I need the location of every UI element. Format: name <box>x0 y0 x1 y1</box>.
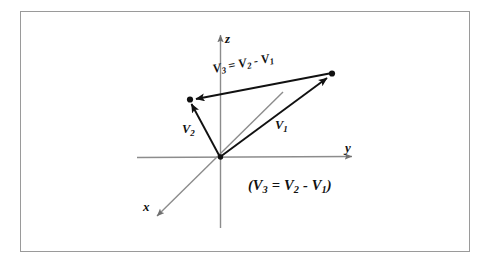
paren-v2-subscript: 2 <box>294 184 299 195</box>
vector-v2-arrow <box>192 104 221 157</box>
paren-v1-base: V <box>312 177 322 193</box>
y-axis-label: y <box>345 141 351 154</box>
v3-eq-v2-subscript: 2 <box>246 60 252 71</box>
v3-eq-equals: = <box>227 58 237 73</box>
vector-v1-label-subscript: 1 <box>283 124 288 134</box>
vector-v2-label-subscript: 2 <box>190 128 195 138</box>
v3-eq-v3-subscript: 3 <box>221 65 227 76</box>
y-axis-line <box>137 157 352 158</box>
paren-v3-base: V <box>253 177 263 193</box>
v3-equation-parenthetical: (V3=V2-V1) <box>248 178 331 195</box>
vector-diagram-svg <box>0 0 487 268</box>
paren-minus: - <box>303 177 308 193</box>
vector-v1-label: V1 <box>275 119 288 134</box>
paren-v3-subscript: 3 <box>263 184 268 195</box>
paren-equals: = <box>272 177 280 193</box>
vector-v2-label: V2 <box>182 123 195 138</box>
figure-root: x y z V1 V2 V3=V2-V1 (V3=V2-V1) <box>0 0 487 268</box>
paren-v2-base: V <box>284 177 294 193</box>
v3-eq-minus: - <box>253 54 260 69</box>
x-axis-label: x <box>143 200 150 213</box>
point-dot-origin <box>218 154 223 159</box>
vector-v1-arrow <box>220 78 327 157</box>
z-axis-label: z <box>225 32 230 45</box>
point-dot-v2-tip <box>187 96 193 102</box>
paren-close: ) <box>327 177 332 193</box>
point-dot-v1-tip <box>329 70 335 76</box>
